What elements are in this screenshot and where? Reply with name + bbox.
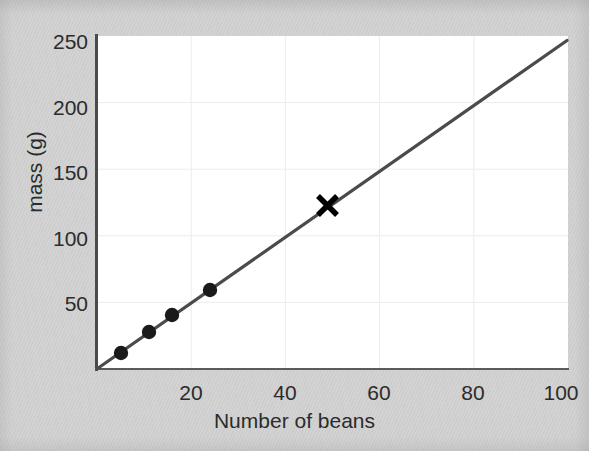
x-tick-80: 80 xyxy=(461,382,484,403)
x-tick-20: 20 xyxy=(179,382,202,403)
y-axis-title-wrap: mass (g) xyxy=(23,42,47,302)
figure-root: 250 200 150 100 50 20 40 60 80 100 Numbe… xyxy=(0,0,589,451)
y-axis-title: mass (g) xyxy=(23,131,46,213)
x-axis-tick-labels: 20 40 60 80 100 xyxy=(0,0,589,451)
x-tick-40: 40 xyxy=(273,382,296,403)
x-tick-100: 100 xyxy=(543,382,578,403)
x-axis-title: Number of beans xyxy=(0,409,589,433)
x-tick-60: 60 xyxy=(367,382,390,403)
